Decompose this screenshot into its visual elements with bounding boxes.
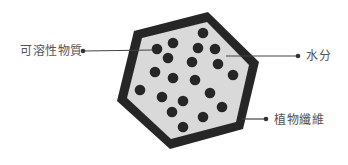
cell-diagram	[0, 0, 348, 165]
water-label: 水分	[306, 49, 331, 63]
plant-fiber-leader	[242, 117, 268, 122]
soluble-matter-label: 可溶性物質	[20, 44, 83, 58]
plant-fiber-label: 植物纖維	[274, 113, 324, 127]
